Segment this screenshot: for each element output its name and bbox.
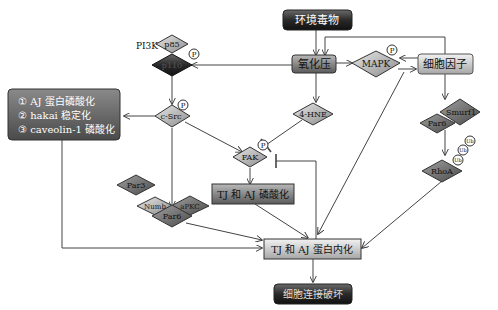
node-par3: Par3 xyxy=(117,175,155,195)
node-oxidative-stress: 氧化压 xyxy=(292,55,336,73)
node-tj-aj-internalization: TJ 和 AJ 蛋白内化 xyxy=(264,239,361,259)
ub-label: Ub xyxy=(454,157,461,163)
ubiquitin-chain-icon: Ub Ub Ub xyxy=(453,136,475,165)
phospho-badge-label: P xyxy=(261,142,266,150)
phospho-badge-label: P xyxy=(192,51,197,59)
ub-label: Ub xyxy=(459,147,466,153)
apkc-label: aPKC xyxy=(180,203,199,211)
node-cytokine: 细胞因子 xyxy=(418,54,473,74)
cytokine-label: 细胞因子 xyxy=(423,58,467,71)
phospho-badge-label: P xyxy=(181,102,186,110)
node-c-src: c-Src P xyxy=(155,100,190,127)
par6-left-label: Par6 xyxy=(163,212,182,221)
tj-aj-intern-label: TJ 和 AJ 蛋白内化 xyxy=(271,243,352,255)
node-fak: FAK P xyxy=(233,140,268,167)
ub-label: Ub xyxy=(466,138,473,144)
oxidative-label: 氧化压 xyxy=(298,57,331,71)
pathway-diagram: 环境毒物 氧化压 MAPK P 细胞因子 PI3K p85 p110 P c-S… xyxy=(0,0,498,310)
phospho-badge-label: P xyxy=(390,47,395,55)
node-effects-box: ① AJ 蛋白磷酸化 ② hakai 稳定化 ③ caveolin-1 磷酸化 xyxy=(8,89,120,140)
smurf1-label: Smurf1 xyxy=(446,108,476,117)
p85-label: p85 xyxy=(164,40,179,49)
node-junction-disruption: 细胞连接破坏 xyxy=(274,284,352,304)
toxin-label: 环境毒物 xyxy=(295,13,339,27)
tj-aj-phos-label: TJ 和 AJ 磷酸化 xyxy=(217,188,288,200)
4-hne-label: 4-HNE xyxy=(299,110,327,119)
effect-item-1: ① AJ 蛋白磷酸化 xyxy=(18,95,95,107)
c-src-label: c-Src xyxy=(161,112,182,121)
par6-right-label: Par6 xyxy=(428,119,447,128)
p110-label: p110 xyxy=(162,61,182,70)
node-mapk: MAPK P xyxy=(352,45,400,77)
pi3k-label: PI3K xyxy=(136,41,158,51)
effect-item-2: ② hakai 稳定化 xyxy=(18,109,91,121)
node-toxin: 环境毒物 xyxy=(283,10,352,30)
node-p85: p85 xyxy=(156,35,188,53)
node-tj-aj-phosphorylation: TJ 和 AJ 磷酸化 xyxy=(212,184,294,204)
node-rhoa: RhoA Ub Ub Ub xyxy=(422,136,475,182)
effect-item-3: ③ caveolin-1 磷酸化 xyxy=(18,123,115,135)
mapk-label: MAPK xyxy=(362,59,391,69)
node-p110: p110 P xyxy=(152,49,199,76)
fak-label: FAK xyxy=(242,153,260,162)
junction-disrupt-label: 细胞连接破坏 xyxy=(283,288,343,300)
par3-label: Par3 xyxy=(127,181,146,190)
rhoa-label: RhoA xyxy=(431,167,453,176)
